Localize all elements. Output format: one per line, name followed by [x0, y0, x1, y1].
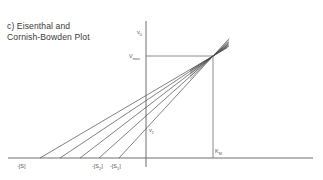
km-label: KM: [215, 148, 222, 156]
y-axis-label: v0: [137, 29, 142, 37]
vmax-label: Vmax: [129, 53, 140, 61]
neg-s1-label: -[S1]: [110, 163, 121, 171]
substrate-line-bundle: [190, 42, 229, 76]
neg-s2-label: -[S2]: [92, 163, 103, 171]
eisenthal-cornish-bowden-plot: v0 Vmax KM v1 -[S] -[S2] -[S1]: [0, 0, 323, 180]
v1-label: v1: [149, 127, 154, 135]
substrate-line-bundle: [190, 40, 229, 79]
neg-s-label: -[S]: [17, 163, 26, 169]
